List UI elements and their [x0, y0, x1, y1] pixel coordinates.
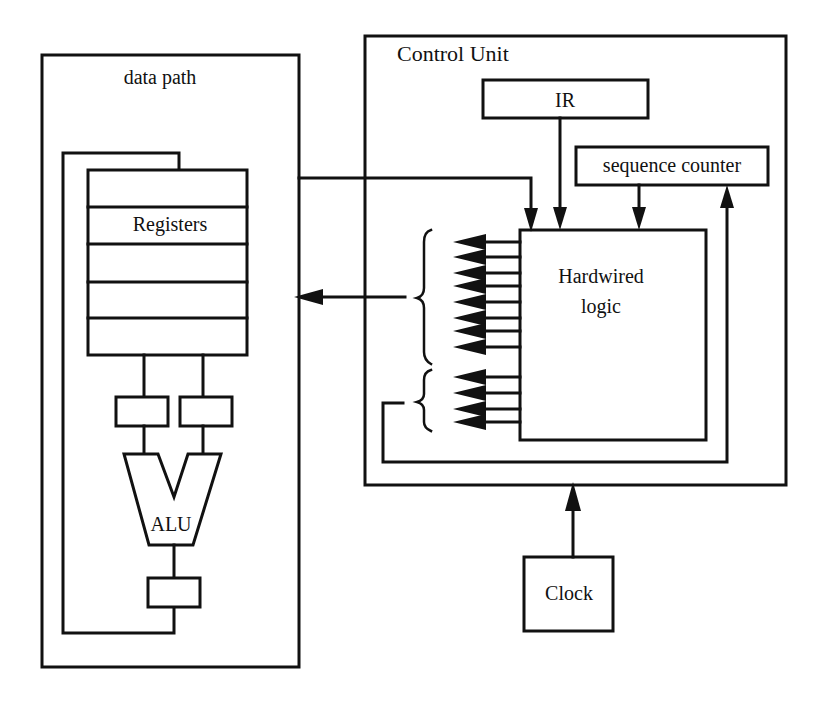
- hardwired-logic-label-1: Hardwired: [558, 265, 644, 287]
- clock-label: Clock: [545, 582, 593, 604]
- data-path-box: [42, 55, 299, 667]
- sequence-counter-label: sequence counter: [603, 154, 742, 177]
- registers-box: [88, 170, 247, 355]
- data-path-label: data path: [124, 66, 197, 89]
- hardwired-logic-block: [520, 230, 706, 440]
- control-unit-label: Control Unit: [397, 41, 509, 66]
- diagram-canvas: data path Registers ALU Control Unit IR …: [0, 0, 830, 709]
- alu-input-latch-a: [116, 397, 168, 426]
- registers-label: Registers: [133, 213, 208, 236]
- alu-input-latch-b: [180, 397, 232, 426]
- hardwired-logic-label-2: logic: [581, 295, 621, 318]
- ir-label: IR: [555, 89, 576, 111]
- alu-label: ALU: [150, 513, 192, 535]
- register-file: Registers: [88, 170, 247, 355]
- alu-output-latch: [148, 578, 200, 607]
